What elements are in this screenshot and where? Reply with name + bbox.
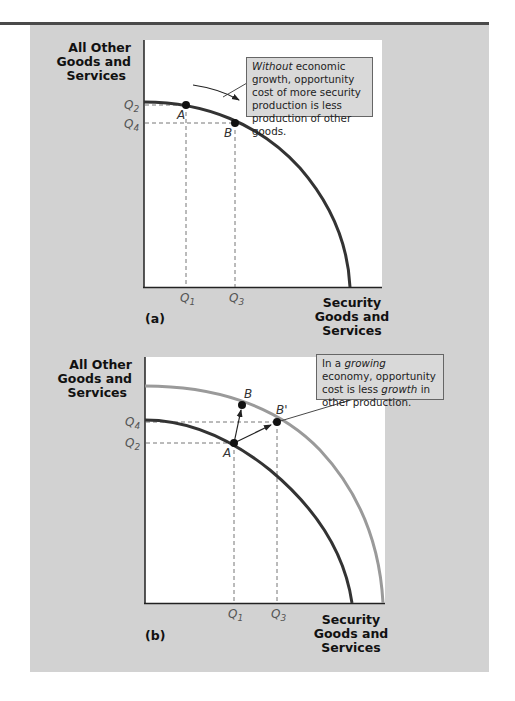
annotation-b-text-1: In a — [322, 357, 344, 369]
point-b-bottom — [238, 401, 246, 409]
x-tick-q1-b: Q1 — [228, 607, 243, 623]
svg-text:Services: Services — [67, 68, 126, 83]
x-tick-q1-a: Q1 — [180, 291, 195, 307]
point-b-label-b: B — [244, 387, 252, 401]
y-tick-q4-b: Q4 — [125, 415, 140, 431]
svg-text:Services: Services — [322, 323, 381, 338]
x-axis-label-b: Security Goods and Services — [314, 612, 388, 655]
point-b-label: B — [224, 126, 232, 140]
annotation-b-italic-2: growth — [381, 383, 417, 395]
svg-text:Services: Services — [321, 640, 380, 655]
point-a-label: A — [176, 108, 185, 122]
annotation-box-a: Without economic growth, opportunity cos… — [246, 57, 373, 117]
y-tick-q2-a: Q2 — [124, 98, 139, 114]
panel-label-a: (a) — [145, 311, 165, 326]
svg-text:Goods and: Goods and — [58, 371, 132, 386]
y-axis-label-a: All Other Goods and Services — [57, 40, 132, 83]
x-tick-q3-b: Q3 — [271, 607, 286, 623]
y-tick-q4-a: Q4 — [124, 117, 139, 133]
svg-text:All Other: All Other — [68, 40, 132, 55]
point-bprime-label: B' — [276, 403, 288, 417]
x-tick-q3-a: Q3 — [229, 291, 244, 307]
x-axis-label-a: Security Goods and Services — [315, 295, 389, 338]
panel-label-b: (b) — [145, 628, 165, 643]
svg-text:Security: Security — [322, 612, 380, 627]
svg-text:Goods and: Goods and — [57, 54, 131, 69]
svg-text:All Other: All Other — [69, 357, 133, 372]
y-tick-q2-b: Q2 — [125, 436, 140, 452]
annotation-a-italic: Without — [252, 60, 292, 72]
annotation-b-italic-1: growing — [344, 357, 385, 369]
svg-text:Goods and: Goods and — [315, 309, 389, 324]
y-axis-label-b: All Other Goods and Services — [58, 357, 133, 400]
annotation-box-b: In a growing economy, opportunity cost i… — [316, 354, 444, 400]
svg-text:Security: Security — [323, 295, 381, 310]
svg-text:Services: Services — [68, 385, 127, 400]
point-a-label-b: A — [222, 446, 231, 460]
point-bprime — [273, 418, 281, 426]
svg-text:Goods and: Goods and — [314, 626, 388, 641]
